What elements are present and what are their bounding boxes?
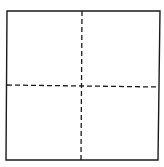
quadrant-diagram	[0, 0, 164, 167]
horizontal-dashed-divider	[7, 85, 159, 87]
